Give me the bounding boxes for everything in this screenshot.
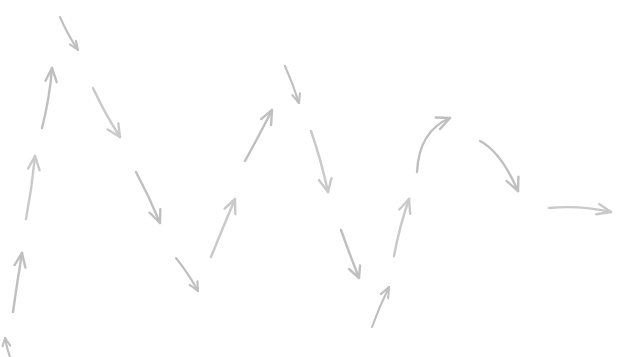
sketch-canvas	[0, 0, 624, 357]
arrow-sketch-svg	[0, 0, 624, 357]
canvas-background	[0, 0, 624, 357]
